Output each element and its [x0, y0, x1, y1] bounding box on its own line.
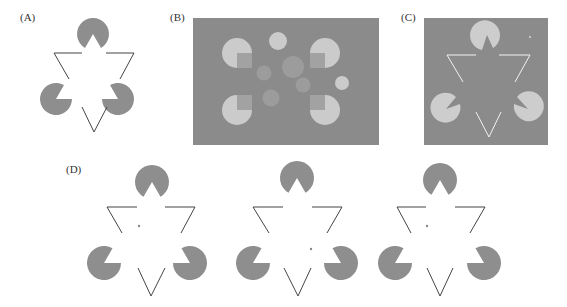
fixation-dot [310, 248, 312, 250]
outline-triangle-bottom [82, 107, 107, 132]
fixation-dot [138, 225, 140, 227]
inducer-top [77, 18, 109, 48]
panel-d-3 [378, 163, 501, 296]
inducer-bottom-right [514, 91, 544, 121]
inducer-bottom-left [40, 83, 72, 115]
illusion-figure [0, 0, 567, 307]
outline-triangle-left [54, 53, 82, 79]
outline-triangle-right [106, 53, 134, 79]
panel-b-disks [193, 18, 379, 145]
panel-a-kanizsa [40, 18, 134, 132]
panel-d-2 [236, 161, 358, 296]
fixation-dot [426, 225, 428, 227]
panel-d-1 [87, 165, 207, 296]
panel-c-inverted [424, 18, 548, 145]
inducer-bottom-right [102, 83, 134, 115]
